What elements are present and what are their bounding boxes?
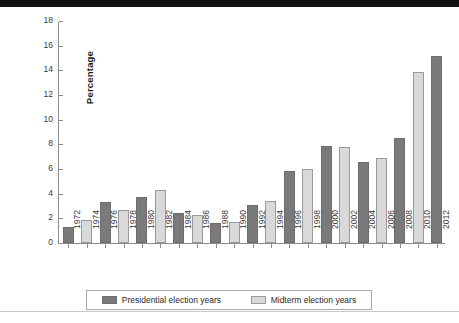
x-axis-tick-label: 2006	[386, 210, 396, 250]
x-axis-tick	[216, 243, 217, 248]
y-axis-tick-label: 8	[48, 138, 53, 148]
x-axis-tick	[308, 243, 309, 248]
x-axis-tick	[105, 243, 106, 248]
legend-label: Midterm election years	[271, 295, 357, 305]
y-axis-tick-label: 0	[48, 237, 53, 247]
legend-item-midterm[interactable]: Midterm election years	[251, 295, 357, 305]
y-axis-tick-label: 16	[44, 40, 53, 50]
x-axis-tick-label: 1984	[183, 210, 193, 250]
x-axis-tick	[289, 243, 290, 248]
x-axis-tick-label: 2008	[404, 210, 414, 250]
x-axis-tick	[345, 243, 346, 248]
y-axis-tick-label: 6	[48, 163, 53, 173]
x-axis-tick	[142, 243, 143, 248]
x-axis-tick-label: 1978	[128, 210, 138, 250]
chart-legend: Presidential election yearsMidterm elect…	[86, 290, 372, 310]
x-axis-tick-label: 2004	[367, 210, 377, 250]
x-axis-tick	[160, 243, 161, 248]
bar-chart: Percentage 024681012141618 1972197419761…	[0, 7, 459, 311]
x-axis-tick-label: 1986	[201, 210, 211, 250]
x-axis-tick-label: 1996	[293, 210, 303, 250]
x-axis-tick-label: 2000	[330, 210, 340, 250]
x-axis-tick	[437, 243, 438, 248]
x-axis-tick	[382, 243, 383, 248]
x-axis-tick	[68, 243, 69, 248]
x-axis-tick	[179, 243, 180, 248]
x-axis-tick-label: 1982	[164, 210, 174, 250]
x-axis-tick-label: 1980	[146, 210, 156, 250]
x-axis-tick-label: 1990	[238, 210, 248, 250]
x-axis-tick-label: 2012	[441, 210, 451, 250]
x-axis-tick-label: 1972	[72, 210, 82, 250]
y-axis-tick-label: 18	[44, 15, 53, 25]
legend-label: Presidential election years	[122, 295, 221, 305]
chart-page: Percentage 024681012141618 1972197419761…	[0, 0, 459, 323]
x-axis-tick	[197, 243, 198, 248]
bottom-divider	[0, 311, 459, 312]
y-axis-tick-label: 10	[44, 114, 53, 124]
legend-swatch-icon	[102, 296, 117, 304]
x-axis-tick	[87, 243, 88, 248]
x-axis-tick	[326, 243, 327, 248]
y-axis-tick-label: 12	[44, 89, 53, 99]
x-axis-tick-label: 1976	[109, 210, 119, 250]
legend-swatch-icon	[251, 296, 266, 304]
x-axis-tick-label: 2010	[422, 210, 432, 250]
y-axis-tick-label: 14	[44, 64, 53, 74]
x-axis-tick-label: 1974	[91, 210, 101, 250]
x-axis-tick	[271, 243, 272, 248]
x-axis-tick	[418, 243, 419, 248]
x-axis-tick	[253, 243, 254, 248]
x-axis-tick	[363, 243, 364, 248]
x-axis-tick-label: 2002	[349, 210, 359, 250]
top-border-band	[0, 0, 459, 7]
x-axis-tick-label: 1998	[312, 210, 322, 250]
plot-area: Percentage 024681012141618 1972197419761…	[58, 22, 445, 244]
x-axis-tick	[124, 243, 125, 248]
x-axis-tick-label: 1992	[257, 210, 267, 250]
y-axis-tick-label: 4	[48, 188, 53, 198]
legend-item-presidential[interactable]: Presidential election years	[102, 295, 221, 305]
y-axis-tick-label: 2	[48, 212, 53, 222]
x-axis-tick-label: 1988	[220, 210, 230, 250]
x-axis-tick-label: 1994	[275, 210, 285, 250]
x-axis-tick	[234, 243, 235, 248]
x-axis-tick	[400, 243, 401, 248]
